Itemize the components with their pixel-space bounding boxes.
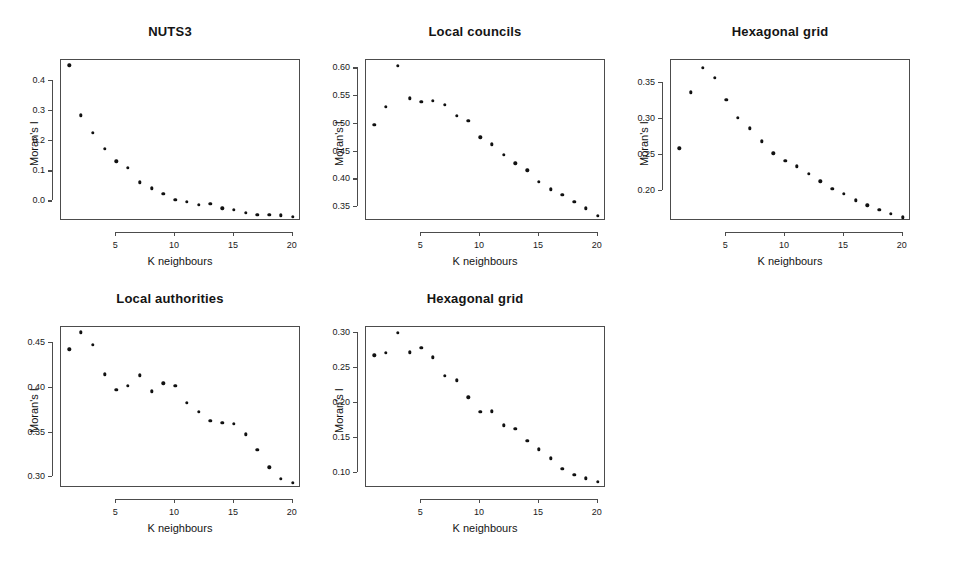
chart-panel-1: NUTS30.00.10.20.30.4Moran's I5101520K ne… <box>20 14 320 289</box>
x-tick-mark <box>233 232 234 236</box>
plot-frame <box>60 326 300 487</box>
chart-panel-2: Local councils0.350.400.450.500.550.60Mo… <box>325 14 625 289</box>
y-tick-label: 0.35 <box>620 77 655 87</box>
data-point <box>173 384 176 387</box>
data-point <box>420 100 423 103</box>
y-tick-mark <box>48 432 52 433</box>
x-tick-label: 5 <box>418 507 423 517</box>
y-tick-label: 0.4 <box>10 75 45 85</box>
data-point <box>162 382 165 385</box>
y-tick-label: 0.45 <box>10 337 45 347</box>
x-tick-label: 20 <box>287 507 297 517</box>
y-tick-mark <box>353 95 357 96</box>
data-point <box>91 343 94 346</box>
y-tick-label: 0.30 <box>10 471 45 481</box>
data-point <box>396 331 399 334</box>
y-tick-mark <box>353 367 357 368</box>
data-point <box>549 457 552 460</box>
x-tick-label: 15 <box>228 507 238 517</box>
y-tick-mark <box>353 151 357 152</box>
x-tick-mark <box>420 499 421 503</box>
data-point <box>549 188 552 191</box>
data-point <box>772 152 775 155</box>
y-axis-line <box>662 82 663 190</box>
data-point <box>91 131 94 134</box>
y-tick-label: 0.0 <box>10 195 45 205</box>
data-point <box>830 187 833 190</box>
data-point <box>291 481 294 484</box>
y-tick-mark <box>48 110 52 111</box>
y-axis-line <box>52 80 53 200</box>
y-tick-label: 0.35 <box>315 201 350 211</box>
data-point <box>760 140 763 143</box>
data-point <box>502 424 505 427</box>
data-point <box>854 198 857 201</box>
data-point <box>795 165 798 168</box>
y-axis-label: Moran's I <box>28 388 40 433</box>
plot-frame <box>365 59 605 220</box>
data-point <box>502 153 505 156</box>
x-axis-label: K neighbours <box>670 255 910 267</box>
y-tick-mark <box>353 67 357 68</box>
data-point <box>701 66 704 69</box>
plot-area: 0.300.350.400.45Moran's I5101520K neighb… <box>20 281 320 556</box>
data-point <box>561 193 564 196</box>
data-point <box>678 147 681 150</box>
data-point <box>373 353 376 356</box>
data-point <box>901 216 904 219</box>
x-axis-line <box>725 232 901 233</box>
x-tick-mark <box>115 499 116 503</box>
x-tick-label: 20 <box>592 240 602 250</box>
x-tick-label: 15 <box>228 240 238 250</box>
x-tick-label: 5 <box>723 240 728 250</box>
x-axis-label: K neighbours <box>60 522 300 534</box>
data-point <box>584 476 587 479</box>
data-point <box>150 186 153 189</box>
y-tick-label: 0.1 <box>10 165 45 175</box>
data-point <box>209 419 212 422</box>
data-point <box>244 433 247 436</box>
x-tick-mark <box>597 499 598 503</box>
data-point <box>889 212 892 215</box>
data-point <box>514 427 517 430</box>
data-point <box>807 172 810 175</box>
plot-area: 0.200.250.300.35Moran's I5101520K neighb… <box>630 14 930 289</box>
y-tick-mark <box>658 118 662 119</box>
data-point <box>431 99 434 102</box>
data-point <box>256 213 259 216</box>
y-tick-mark <box>48 140 52 141</box>
x-tick-mark <box>174 499 175 503</box>
x-tick-label: 20 <box>897 240 907 250</box>
data-point <box>209 202 212 205</box>
y-tick-label: 0.10 <box>315 467 350 477</box>
data-point <box>878 208 881 211</box>
x-axis-line <box>115 232 291 233</box>
y-tick-label: 0.3 <box>10 105 45 115</box>
data-point <box>291 215 294 218</box>
plot-frame <box>60 59 300 220</box>
x-tick-label: 10 <box>169 507 179 517</box>
x-axis-line <box>420 232 596 233</box>
x-tick-mark <box>597 232 598 236</box>
data-point <box>748 127 751 130</box>
data-point <box>79 331 82 334</box>
x-tick-label: 15 <box>533 507 543 517</box>
data-point <box>103 147 106 150</box>
y-tick-mark <box>353 402 357 403</box>
data-point <box>561 467 564 470</box>
data-point <box>115 388 118 391</box>
data-point <box>490 410 493 413</box>
y-axis-label: Moran's I <box>333 388 345 433</box>
data-point <box>467 119 470 122</box>
data-point <box>126 384 129 387</box>
x-tick-mark <box>420 232 421 236</box>
data-point <box>443 103 446 106</box>
y-axis-label: Moran's I <box>28 121 40 166</box>
data-point <box>197 410 200 413</box>
data-point <box>842 192 845 195</box>
data-point <box>866 203 869 206</box>
data-point <box>455 379 458 382</box>
x-tick-label: 20 <box>287 240 297 250</box>
y-tick-label: 0.60 <box>315 62 350 72</box>
y-tick-mark <box>353 178 357 179</box>
